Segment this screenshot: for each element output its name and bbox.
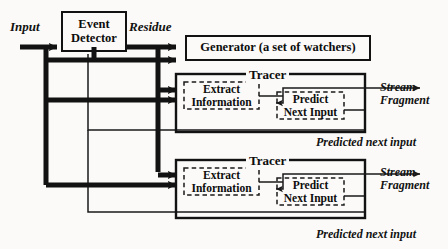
extract-information-2-box <box>184 168 259 195</box>
extract-information-1-box <box>184 82 259 109</box>
diagram-vector-layer <box>0 0 448 249</box>
input-label: Input <box>10 20 40 34</box>
predict-next-input-1-box <box>277 92 344 119</box>
thick-bus-group <box>20 47 176 185</box>
stream-fragment-1-label: Stream Fragment <box>380 81 429 106</box>
stream-fragment-2-label: Stream Fragment <box>380 166 429 191</box>
predict-next-input-2-box <box>277 178 344 205</box>
predicted-next-input-2-label: Predicted next input <box>316 228 416 241</box>
predicted-next-input-1-label: Predicted next input <box>316 136 416 149</box>
tracer-1-title: Tracer <box>246 67 289 83</box>
event-detector-box <box>62 12 126 51</box>
generator-box <box>186 36 370 60</box>
diagram-canvas: Input Residue Event Detector Generator (… <box>0 0 448 249</box>
residue-label: Residue <box>129 20 172 34</box>
tracer-2-title: Tracer <box>246 153 289 169</box>
